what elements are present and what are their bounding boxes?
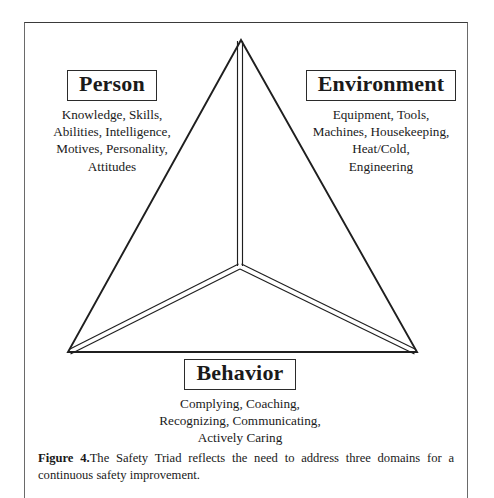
corner-item-line: Complying, Coaching, <box>150 395 330 412</box>
corner-block-person: Person Knowledge, Skills, Abilities, Int… <box>22 70 202 175</box>
corner-title-box-environment: Environment <box>306 70 456 101</box>
corner-item-line: Heat/Cold, <box>288 140 474 157</box>
corner-items-environment: Equipment, Tools, Machines, Housekeeping… <box>288 106 474 176</box>
corner-title-box-behavior: Behavior <box>184 359 295 390</box>
corner-item-line: Knowledge, Skills, <box>22 106 202 123</box>
corner-item-line: Attitudes <box>22 158 202 175</box>
corner-item-line: Recognizing, Communicating, <box>150 412 330 429</box>
corner-item-line: Actively Caring <box>150 429 330 446</box>
corner-block-behavior: Behavior Complying, Coaching, Recognizin… <box>150 359 330 447</box>
corner-item-line: Machines, Housekeeping, <box>288 123 474 140</box>
corner-title-behavior: Behavior <box>196 361 283 386</box>
corner-item-line: Equipment, Tools, <box>288 106 474 123</box>
corner-items-person: Knowledge, Skills, Abilities, Intelligen… <box>22 106 202 176</box>
corner-items-behavior: Complying, Coaching, Recognizing, Commun… <box>150 395 330 447</box>
corner-item-line: Abilities, Intelligence, <box>22 123 202 140</box>
figure-caption-text: The Safety Triad reflects the need to ad… <box>38 451 454 482</box>
corner-block-environment: Environment Equipment, Tools, Machines, … <box>288 70 474 175</box>
corner-item-line: Engineering <box>288 158 474 175</box>
figure-caption: Figure 4.The Safety Triad reflects the n… <box>38 450 454 485</box>
figure-caption-label: Figure 4. <box>38 451 90 465</box>
corner-title-box-person: Person <box>67 70 157 101</box>
corner-item-line: Motives, Personality, <box>22 140 202 157</box>
corner-title-environment: Environment <box>318 72 444 97</box>
corner-title-person: Person <box>79 72 145 97</box>
